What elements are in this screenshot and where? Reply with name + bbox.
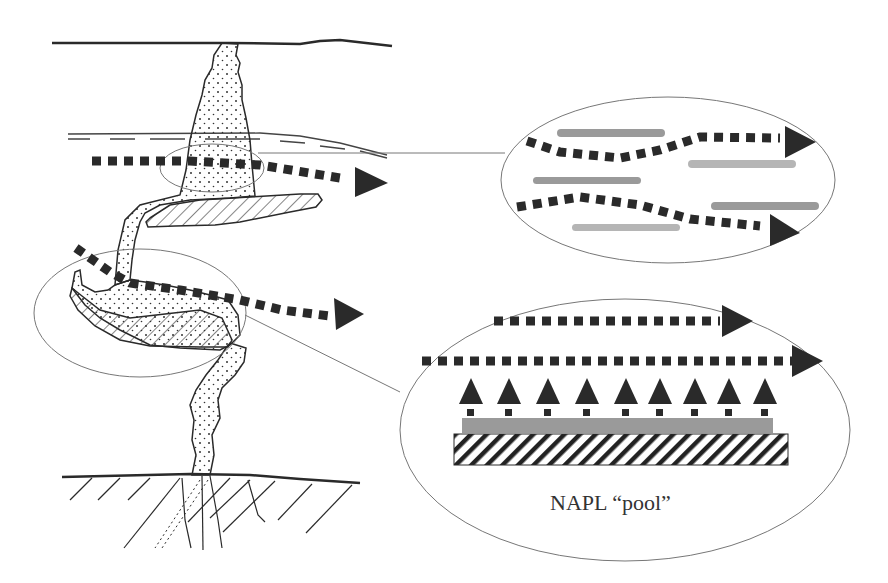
diagram-canvas [0,0,888,583]
napl-plume-lower-trunk [190,343,246,475]
callout-line-lower [245,315,400,392]
napl-diagram: NAPL “pool” [0,0,888,583]
bedrock-fractured [62,474,360,550]
napl-pool-label: NAPL “pool” [550,490,671,516]
aquitard-layer [454,434,788,465]
zoom-callout-pool [400,299,850,561]
napl-pool-layer [462,418,773,433]
zoom-callout-ganglia [501,97,835,263]
